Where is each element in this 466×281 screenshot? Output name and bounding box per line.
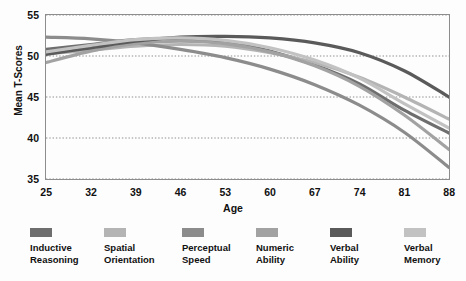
line-chart-svg <box>46 15 449 179</box>
x-tick-88: 88 <box>434 186 464 198</box>
legend-label-line1: Verbal <box>330 242 406 254</box>
x-axis-title: Age <box>0 202 466 214</box>
legend-label-line2: Ability <box>256 254 332 266</box>
legend-item-numeric-ability[interactable]: NumericAbility <box>256 228 332 265</box>
y-tick-50: 50 <box>11 50 39 62</box>
x-tick-81: 81 <box>389 186 419 198</box>
legend-label-line2: Ability <box>330 254 406 266</box>
x-tick-60: 60 <box>255 186 285 198</box>
legend-label-line1: Numeric <box>256 242 332 254</box>
x-tick-46: 46 <box>166 186 196 198</box>
x-tick-74: 74 <box>345 186 375 198</box>
plot-area <box>45 14 450 180</box>
x-tick-53: 53 <box>210 186 240 198</box>
legend-label-line1: Verbal <box>404 242 466 254</box>
chart-figure: Mean T-Scores 5550454035 Age InductiveRe… <box>0 0 466 281</box>
legend-label-line1: Perceptual <box>182 242 258 254</box>
legend-swatch-icon <box>182 228 204 237</box>
legend-swatch-icon <box>30 228 52 237</box>
chart-legend: InductiveReasoningSpatialOrientationPerc… <box>0 222 466 281</box>
legend-label-line2: Orientation <box>104 254 180 266</box>
x-tick-32: 32 <box>76 186 106 198</box>
y-tick-55: 55 <box>11 9 39 21</box>
legend-item-inductive-reasoning[interactable]: InductiveReasoning <box>30 228 106 265</box>
legend-label-line2: Memory <box>404 254 466 266</box>
x-tick-67: 67 <box>300 186 330 198</box>
legend-label-line1: Spatial <box>104 242 180 254</box>
x-tick-25: 25 <box>31 186 61 198</box>
legend-swatch-icon <box>256 228 278 237</box>
y-tick-45: 45 <box>11 91 39 103</box>
legend-label-line2: Speed <box>182 254 258 266</box>
y-tick-35: 35 <box>11 173 39 185</box>
x-tick-39: 39 <box>121 186 151 198</box>
legend-label-line1: Inductive <box>30 242 106 254</box>
legend-item-perceptual-speed[interactable]: PerceptualSpeed <box>182 228 258 265</box>
legend-item-spatial-orientation[interactable]: SpatialOrientation <box>104 228 180 265</box>
series-line-verbal-memory <box>46 38 449 128</box>
legend-label-line2: Reasoning <box>30 254 106 266</box>
series-line-inductive-reasoning <box>46 39 449 133</box>
legend-swatch-icon <box>404 228 426 237</box>
legend-item-verbal-ability[interactable]: VerbalAbility <box>330 228 406 265</box>
y-tick-40: 40 <box>11 132 39 144</box>
legend-swatch-icon <box>104 228 126 237</box>
legend-swatch-icon <box>330 228 352 237</box>
legend-item-verbal-memory[interactable]: VerbalMemory <box>404 228 466 265</box>
